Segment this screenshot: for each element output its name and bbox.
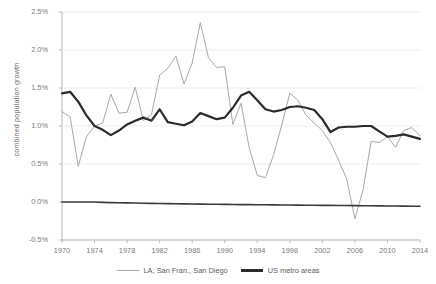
y-tick-label: 0.5% xyxy=(14,160,48,168)
y-tick-label: 2.5% xyxy=(14,8,48,16)
y-tick-label: 0.0% xyxy=(14,198,48,206)
y-tick-label: 1.5% xyxy=(14,84,48,92)
legend-item[interactable]: US metro areas xyxy=(241,266,320,275)
legend-label: US metro areas xyxy=(268,266,320,275)
series-line xyxy=(62,23,420,219)
chart-legend: LA, San Fran., San DiegoUS metro areas xyxy=(0,266,436,275)
x-axis-tick-labels: 1970197419781982198619901994199820022006… xyxy=(0,246,436,258)
series-line xyxy=(62,92,420,139)
y-tick-label: -0.5% xyxy=(14,236,48,244)
y-tick-label: 2.0% xyxy=(14,46,48,54)
legend-swatch-thick-line-icon xyxy=(241,269,263,271)
legend-item[interactable]: LA, San Fran., San Diego xyxy=(117,266,228,275)
plot-area xyxy=(0,0,436,284)
zero-baseline-line xyxy=(62,202,420,206)
population-growth-chart: combined population growth 2.5%2.0%1.5%1… xyxy=(0,0,436,284)
legend-swatch-thin-line-icon xyxy=(117,270,139,271)
y-tick-label: 1.0% xyxy=(14,122,48,130)
chart-title-clipped xyxy=(196,0,432,5)
legend-label: LA, San Fran., San Diego xyxy=(144,266,228,275)
x-tick-label: 2014 xyxy=(400,246,436,255)
y-axis-tick-labels: 2.5%2.0%1.5%1.0%0.5%0.0%-0.5% xyxy=(14,0,48,250)
